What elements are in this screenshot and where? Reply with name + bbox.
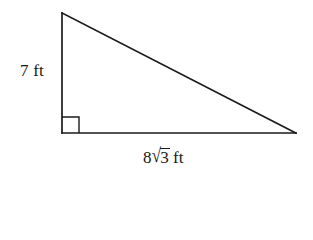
vertical-leg-label: 7 ft bbox=[20, 62, 44, 79]
radical-expression: √3 bbox=[152, 148, 169, 166]
base-leg-label: 8√3ft bbox=[143, 148, 184, 166]
base-leg-radicand: 3 bbox=[160, 148, 169, 166]
base-leg-unit: ft bbox=[173, 148, 184, 167]
base-leg-coefficient: 8 bbox=[143, 148, 152, 167]
